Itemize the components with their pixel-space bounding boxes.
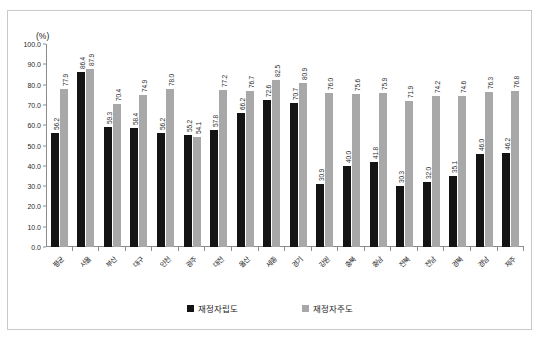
x-axis-label-cell: 대구 — [126, 252, 153, 292]
bar-value-label: 40.0 — [344, 151, 351, 163]
x-axis-category-label: 광주 — [184, 254, 200, 270]
legend-swatch-icon — [187, 305, 194, 312]
bar-value-label: 82.5 — [274, 64, 281, 76]
x-axis-label-cell: 광주 — [179, 252, 206, 292]
bar-group: 32.074.2 — [418, 44, 445, 247]
bar-group: 46.276.8 — [498, 44, 525, 247]
bar: 77.2 — [219, 90, 227, 247]
bar: 74.2 — [432, 96, 440, 247]
bar: 76.0 — [325, 93, 333, 247]
x-axis-tick — [46, 247, 73, 251]
x-axis-category-label: 경기 — [290, 254, 306, 270]
bar: 54.1 — [193, 137, 201, 247]
bar: 76.3 — [485, 92, 493, 247]
bar-group: 56.278.0 — [152, 44, 179, 247]
legend-item[interactable]: 재정자주도 — [302, 302, 353, 314]
bar-group: 58.474.9 — [126, 44, 153, 247]
bar: 75.9 — [379, 93, 387, 247]
bar: 55.2 — [184, 135, 192, 247]
x-axis-category-label: 서울 — [77, 254, 93, 270]
x-axis-label-cell: 경남 — [471, 252, 498, 292]
bar: 41.8 — [370, 162, 378, 247]
x-axis-tick — [205, 247, 232, 251]
bar-group: 46.076.3 — [471, 44, 498, 247]
bar: 77.9 — [60, 89, 68, 247]
bar-value-label: 54.1 — [194, 122, 201, 134]
bar-group: 56.277.9 — [46, 44, 73, 247]
bar-group: 40.075.6 — [338, 44, 365, 247]
bar-value-label: 70.4 — [114, 89, 121, 101]
bar-value-label: 56.2 — [52, 118, 59, 130]
x-axis-tick — [259, 247, 286, 251]
bar: 71.9 — [405, 101, 413, 247]
y-axis-unit-label: (%) — [36, 31, 49, 41]
x-axis-tick — [179, 247, 206, 251]
x-axis-category-label: 부산 — [104, 254, 120, 270]
bar-value-label: 86.4 — [79, 57, 86, 69]
x-axis-tick — [498, 247, 525, 251]
bar-value-label: 55.2 — [185, 120, 192, 132]
x-axis-category-label: 충남 — [370, 254, 386, 270]
bar-value-label: 78.0 — [168, 74, 175, 86]
x-axis-category-label: 울산 — [237, 254, 253, 270]
bar-group: 86.487.9 — [73, 44, 100, 247]
bar: 87.9 — [86, 69, 94, 247]
bar: 82.5 — [272, 80, 280, 247]
x-axis-tick — [418, 247, 445, 251]
x-axis-category-labels: 평균서울부산대구인천광주대전울산세종경기강원충북충남전북전남경북경남제주 — [46, 252, 524, 292]
bar: 80.9 — [299, 83, 307, 247]
bar-value-label: 74.2 — [433, 81, 440, 93]
legend-label: 재정자주도 — [313, 302, 353, 314]
bar-value-label: 72.6 — [265, 85, 272, 97]
bar: 76.7 — [246, 91, 254, 247]
legend-swatch-icon — [302, 305, 309, 312]
x-axis-tick-marks — [46, 247, 524, 251]
x-axis-category-label: 전남 — [423, 254, 439, 270]
chart-legend: 재정자립도재정자주도 — [0, 302, 539, 314]
bar-value-label: 80.9 — [300, 68, 307, 80]
x-axis-category-label: 대구 — [130, 254, 146, 270]
x-axis-tick — [338, 247, 365, 251]
bar: 32.0 — [423, 182, 431, 247]
chart-page: (%) 100.090.080.070.060.050.040.030.020.… — [0, 0, 539, 339]
bar: 70.7 — [290, 103, 298, 247]
bar: 74.6 — [458, 96, 466, 247]
x-axis-tick — [232, 247, 259, 251]
bar-group: 35.174.6 — [444, 44, 471, 247]
legend-item[interactable]: 재정자립도 — [187, 302, 238, 314]
bar-value-label: 76.0 — [327, 78, 334, 90]
bar-group: 59.370.4 — [99, 44, 126, 247]
bar: 46.0 — [476, 154, 484, 247]
bar: 58.4 — [130, 128, 138, 247]
x-axis-category-label: 경북 — [449, 254, 465, 270]
bar-value-label: 74.9 — [141, 80, 148, 92]
bar-group: 72.682.5 — [259, 44, 286, 247]
x-axis-category-label: 세종 — [263, 254, 279, 270]
bar-value-label: 30.3 — [398, 170, 405, 182]
bar-value-label: 56.2 — [159, 118, 166, 130]
bar-value-label: 74.6 — [460, 81, 467, 93]
legend-label: 재정자립도 — [198, 302, 238, 314]
x-axis-label-cell: 충북 — [338, 252, 365, 292]
bar: 72.6 — [263, 100, 271, 247]
bar: 59.3 — [104, 127, 112, 247]
bar-value-label: 76.7 — [247, 76, 254, 88]
bar-group: 41.875.9 — [365, 44, 392, 247]
x-axis-tick — [365, 247, 392, 251]
bar-group: 30.976.0 — [312, 44, 339, 247]
bar: 70.4 — [113, 104, 121, 247]
bar: 76.8 — [511, 91, 519, 247]
x-axis-label-cell: 세종 — [259, 252, 286, 292]
x-axis-category-label: 평균 — [51, 254, 67, 270]
x-axis-tick — [99, 247, 126, 251]
x-axis-tick — [471, 247, 498, 251]
x-axis-label-cell: 경기 — [285, 252, 312, 292]
x-axis-tick — [312, 247, 339, 251]
x-axis-label-cell: 전북 — [391, 252, 418, 292]
bar-value-label: 59.3 — [105, 112, 112, 124]
x-axis-category-label: 강원 — [316, 254, 332, 270]
bar-value-label: 76.3 — [486, 77, 493, 89]
bar-value-label: 77.9 — [61, 74, 68, 86]
x-axis-label-cell: 경북 — [444, 252, 471, 292]
bar: 75.6 — [352, 94, 360, 247]
